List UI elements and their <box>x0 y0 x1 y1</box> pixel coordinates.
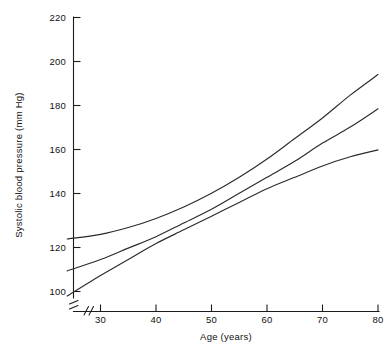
y-tick-label-100: 100 <box>50 286 66 297</box>
y-tick-label-200: 200 <box>50 56 66 67</box>
middle-curve <box>67 109 378 271</box>
y-tick-label-160: 160 <box>50 144 66 155</box>
x-axis: 30 40 50 60 70 80 <box>74 305 384 326</box>
x-axis-tick-labels: 30 40 50 60 70 80 <box>95 314 383 325</box>
y-tick-label-220: 220 <box>50 12 66 23</box>
x-axis-title: Age (years) <box>200 331 252 342</box>
x-tick-label-50: 50 <box>206 314 217 325</box>
y-tick-label-140: 140 <box>50 188 66 199</box>
y-axis-ticks <box>74 18 81 292</box>
x-tick-label-40: 40 <box>151 314 162 325</box>
chart-figure: 220 200 180 160 140 120 100 <box>0 0 392 348</box>
chart-plot-area: 220 200 180 160 140 120 100 <box>0 0 392 348</box>
data-curves <box>67 75 378 296</box>
lower-curve <box>67 150 378 296</box>
y-axis-tick-labels: 220 200 180 160 140 120 100 <box>50 12 66 297</box>
y-axis-title: Systolic blood pressure (mm Hg) <box>13 92 24 238</box>
x-axis-break-mark <box>84 307 94 316</box>
x-tick-label-70: 70 <box>317 314 328 325</box>
x-tick-label-80: 80 <box>373 314 384 325</box>
upper-curve <box>67 75 378 239</box>
y-axis: 220 200 180 160 140 120 100 <box>50 12 81 309</box>
x-axis-ticks <box>101 305 379 312</box>
x-tick-label-30: 30 <box>95 314 106 325</box>
y-tick-label-180: 180 <box>50 100 66 111</box>
y-axis-break-mark <box>70 301 79 310</box>
x-tick-label-60: 60 <box>262 314 273 325</box>
y-tick-label-120: 120 <box>50 242 66 253</box>
